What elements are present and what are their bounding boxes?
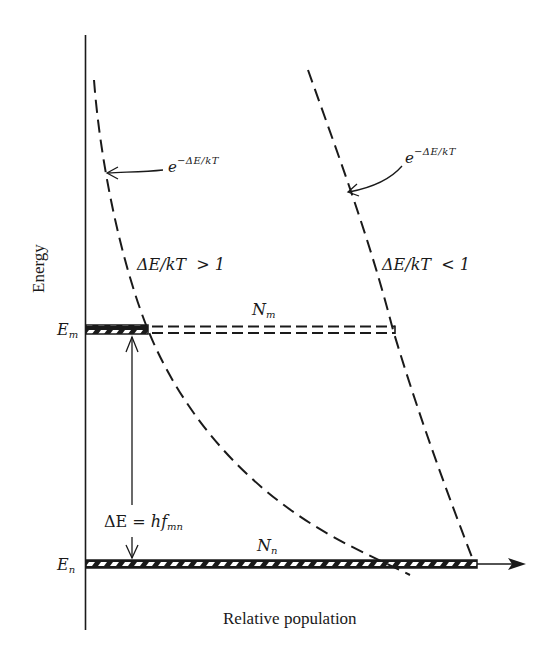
upper-level-bar: [86, 325, 148, 334]
shallow-curve-exponential-label: e−ΔE/kT: [405, 147, 456, 166]
steep-curve-condition: ΔE/kT > 1: [137, 257, 225, 273]
y-axis-label: Energy: [30, 244, 47, 293]
upper-level-label: Em: [57, 322, 78, 340]
steep-curve-exponential-label: e−ΔE/kT: [168, 156, 219, 175]
boltzmann-population-diagram: Energy Relative population Em En Nm Nn Δ…: [0, 0, 554, 656]
diagram-graphics: [0, 0, 554, 656]
steep-curve-pointer: [108, 170, 163, 173]
upper-population-label: Nm: [252, 302, 275, 320]
lower-level-label: En: [57, 557, 75, 575]
shallow-curve-pointer: [349, 166, 402, 192]
lower-level-bar: [86, 560, 477, 568]
shallow-boltzmann-curve: [308, 70, 473, 560]
energy-gap-label: ΔE = hfmn: [104, 514, 183, 532]
x-axis-label: Relative population: [223, 610, 357, 627]
lower-population-label: Nn: [257, 538, 277, 556]
shallow-curve-condition: ΔE/kT < 1: [382, 257, 470, 273]
